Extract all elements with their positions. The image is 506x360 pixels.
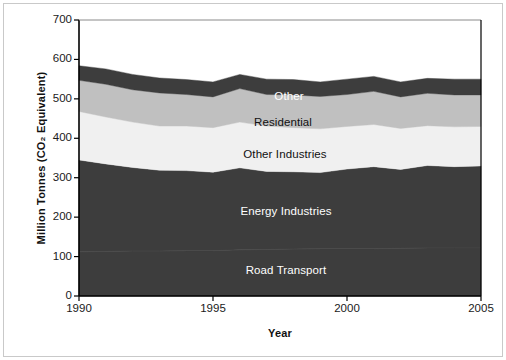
- y-tick-700: 700: [36, 13, 72, 25]
- x-tick-2000: 2000: [324, 302, 370, 314]
- x-axis-title: Year: [79, 327, 481, 339]
- y-axis-title: Million Tonnes (CO₂ Equivalent): [35, 53, 47, 263]
- series-label-energy-industries: Energy Industries: [240, 205, 331, 217]
- y-tick-0: 0: [36, 289, 72, 301]
- x-tick-1995: 1995: [190, 302, 236, 314]
- x-tick-1990: 1990: [56, 302, 102, 314]
- series-label-other-industries: Other Industries: [243, 148, 326, 160]
- chart-figure: 700 600 500 400 300 200 100 0 1990 1995 …: [0, 0, 506, 360]
- series-label-road-transport: Road Transport: [246, 264, 327, 276]
- series-label-other: Other: [274, 90, 303, 102]
- x-tick-2005: 2005: [458, 302, 504, 314]
- series-label-residential: Residential: [254, 116, 312, 128]
